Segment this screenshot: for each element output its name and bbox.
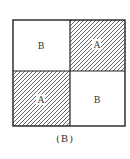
label-bottom-left: A <box>37 95 45 105</box>
label-top-left: B <box>38 41 45 51</box>
label-top-right: A <box>93 40 101 50</box>
figure-caption: (B) <box>0 133 130 144</box>
label-bottom-right: B <box>94 95 101 105</box>
